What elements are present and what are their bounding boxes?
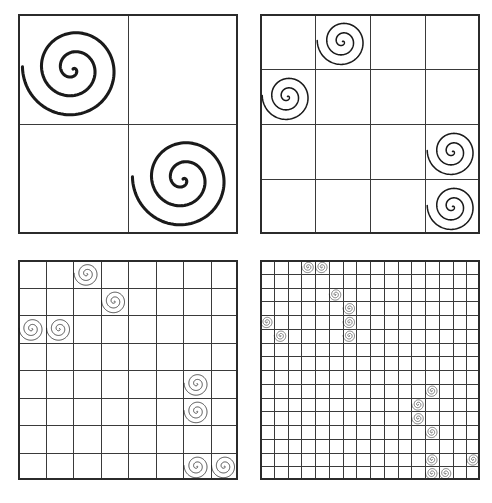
spiral-glyph	[317, 23, 363, 64]
spiral-glyph	[426, 427, 437, 437]
spiral-glyph	[47, 320, 70, 341]
spiral-glyph	[426, 386, 437, 396]
spiral-glyph	[262, 78, 308, 119]
spiral-glyph	[132, 143, 224, 225]
grid-lines	[18, 260, 238, 480]
panel-top-left	[18, 14, 238, 234]
spiral-glyph	[274, 331, 285, 341]
spiral-glyph	[427, 188, 473, 229]
spiral-glyph	[184, 402, 207, 423]
grid-lines	[18, 14, 238, 234]
panel-top-right-canvas	[260, 14, 480, 234]
spiral-glyph	[412, 400, 423, 410]
figure-container	[0, 0, 492, 503]
spiral-glyph	[427, 133, 473, 174]
spiral-glyph	[426, 455, 437, 465]
panel-bottom-right	[260, 260, 480, 480]
spiral-glyph	[22, 33, 114, 115]
spiral-glyph	[302, 262, 313, 272]
spiral-glyph	[261, 317, 272, 327]
spiral-glyph	[74, 265, 97, 286]
spiral-glyph	[439, 469, 450, 479]
spiral-glyph	[343, 304, 354, 314]
spiral-glyph	[19, 320, 42, 341]
spiral-glyph	[316, 262, 327, 272]
grid-lines	[260, 260, 480, 480]
spiral-glyph	[343, 317, 354, 327]
spiral-glyph	[212, 457, 235, 478]
panel-top-left-canvas	[18, 14, 238, 234]
spiral-glyph	[184, 457, 207, 478]
spiral-glyph	[343, 331, 354, 341]
panel-bottom-left	[18, 260, 238, 480]
panel-bottom-left-canvas	[18, 260, 238, 480]
spiral-glyph	[102, 292, 125, 313]
spiral-glyph	[329, 290, 340, 300]
panel-bottom-right-canvas	[260, 260, 480, 480]
spiral-layer	[19, 265, 234, 478]
spiral-layer	[262, 23, 473, 229]
panel-top-right	[260, 14, 480, 234]
spiral-glyph	[426, 469, 437, 479]
spiral-layer	[22, 33, 224, 225]
spiral-glyph	[412, 414, 423, 424]
spiral-glyph	[467, 455, 478, 465]
spiral-glyph	[184, 375, 207, 396]
